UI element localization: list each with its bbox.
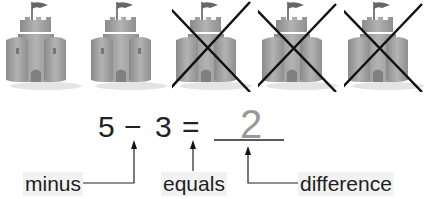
minuend: 5 <box>98 112 115 142</box>
sandcastle-icon <box>2 0 86 92</box>
label-difference: difference <box>298 172 394 196</box>
sandcastle-5-crossed <box>344 0 428 92</box>
sandcastle-icon <box>172 0 256 92</box>
minus-sign: − <box>124 112 142 142</box>
answer-difference: 2 <box>240 104 262 144</box>
sandcastle-icon <box>258 0 342 92</box>
label-equals: equals <box>161 172 227 196</box>
equals-sign: = <box>182 112 200 142</box>
sandcastle-icon <box>87 0 171 92</box>
sandcastle-4-crossed <box>258 0 342 92</box>
subtrahend: 3 <box>155 112 172 142</box>
sandcastle-2 <box>87 0 171 92</box>
sandcastle-3-crossed <box>172 0 256 92</box>
label-minus: minus <box>23 172 83 196</box>
sandcastle-1 <box>2 0 86 92</box>
sandcastle-icon <box>344 0 428 92</box>
